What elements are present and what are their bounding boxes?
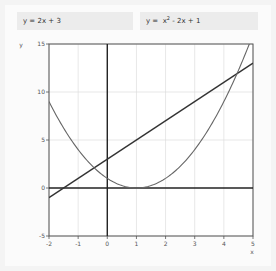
x-tick-label: -2: [46, 240, 52, 247]
y-tick-label: -5: [39, 232, 45, 239]
y-tick-label: 10: [37, 88, 45, 95]
x-tick-label: 4: [222, 240, 226, 247]
x-tick-label: 1: [135, 240, 139, 247]
x-tick-label: -1: [75, 240, 81, 247]
y-tick-label: 15: [37, 40, 45, 47]
y-axis-label: y: [19, 41, 23, 49]
x-axis-label: x: [250, 248, 254, 255]
function-plot[interactable]: -2-1012345-5051015xy: [0, 0, 276, 271]
x-tick-label: 2: [164, 240, 168, 247]
y-tick-label: 0: [41, 184, 45, 191]
x-tick-label: 5: [251, 240, 255, 247]
x-tick-label: 0: [105, 240, 109, 247]
x-tick-label: 3: [193, 240, 197, 247]
y-tick-label: 5: [41, 136, 45, 143]
